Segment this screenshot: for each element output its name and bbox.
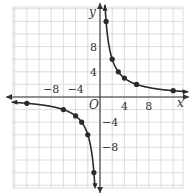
x-arrow-left-icon [6, 94, 12, 100]
curve-arrow-up-icon [103, 5, 108, 11]
hyperbola-chart: −8−44884−4−8 x y O [0, 0, 195, 196]
y-tick-label: 4 [90, 66, 97, 79]
x-tick-label: 4 [121, 100, 128, 113]
data-point [91, 170, 96, 175]
data-point [85, 132, 90, 137]
data-point [79, 120, 84, 125]
y-tick-label: −4 [102, 116, 118, 129]
x-tick-label: −8 [43, 83, 59, 96]
x-axis-label: x [177, 96, 184, 110]
data-point [104, 19, 109, 24]
curve-arrow-right-icon [182, 89, 188, 94]
data-point [24, 101, 29, 106]
data-point [134, 82, 139, 87]
x-arrow-right-icon [183, 94, 189, 100]
data-point [110, 57, 115, 62]
data-point [116, 69, 121, 74]
y-arrow-up-icon [97, 3, 103, 9]
curve-negative-branch [12, 102, 95, 186]
curve-positive-branch [105, 5, 188, 92]
data-point [122, 76, 127, 81]
y-axis-label: y [88, 5, 96, 19]
origin-label: O [89, 98, 99, 112]
data-point [61, 107, 66, 112]
y-arrow-down-icon [97, 187, 103, 193]
data-point [171, 88, 176, 93]
x-tick-label: 8 [145, 100, 152, 113]
y-tick-label: 8 [90, 41, 97, 54]
y-tick-label: −8 [102, 141, 118, 154]
data-point [73, 113, 78, 118]
x-tick-label: −4 [67, 83, 83, 96]
